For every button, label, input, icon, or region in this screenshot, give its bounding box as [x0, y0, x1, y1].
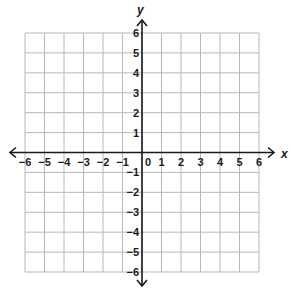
y-tick-label: 6 — [133, 27, 139, 39]
x-tick-label: 6 — [256, 156, 262, 168]
y-tick-label: −6 — [126, 266, 139, 278]
x-tick-label: 5 — [236, 156, 242, 168]
x-axis-label: x — [280, 147, 289, 161]
y-tick-label: −5 — [126, 246, 139, 258]
y-tick-label: −2 — [126, 186, 139, 198]
x-tick-label: 2 — [178, 156, 184, 168]
y-tick-label: 2 — [133, 107, 139, 119]
y-tick-label: −4 — [126, 226, 139, 238]
y-tick-label: 1 — [133, 127, 139, 139]
y-axis-label: y — [136, 3, 145, 17]
x-tick-labels: −6−5−4−3−2−10123456 — [19, 156, 262, 168]
y-tick-label: 4 — [133, 67, 140, 79]
y-tick-label: 3 — [133, 87, 139, 99]
x-tick-label: −6 — [19, 156, 32, 168]
y-tick-label: −1 — [126, 166, 139, 178]
x-tick-label: −4 — [58, 156, 71, 168]
coordinate-plane: −6−5−4−3−2−10123456 −6−5−4−3−2−1123456 x… — [0, 0, 291, 291]
x-tick-label: −3 — [77, 156, 90, 168]
x-tick-label: −5 — [38, 156, 51, 168]
y-tick-label: 5 — [133, 47, 139, 59]
x-tick-label: 0 — [145, 156, 151, 168]
x-tick-label: −2 — [97, 156, 110, 168]
y-tick-label: −3 — [126, 206, 139, 218]
x-tick-label: 3 — [197, 156, 203, 168]
x-tick-label: 1 — [158, 156, 164, 168]
axes — [10, 20, 274, 286]
x-tick-label: 4 — [217, 156, 224, 168]
